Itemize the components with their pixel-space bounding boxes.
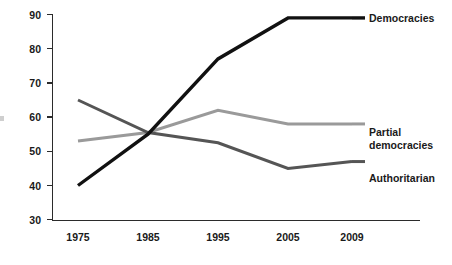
chart-canvas: 90 80 70 60 50 40 30 1975 1985 1995 2005…	[0, 0, 452, 265]
x-tick-label-1995: 1995	[206, 231, 230, 243]
y-tick-label-90: 90	[29, 9, 41, 21]
series-line-partial-democracies	[78, 110, 352, 141]
x-tick-label-2009: 2009	[340, 231, 364, 243]
edge-artifact	[0, 116, 4, 121]
series-label-partial-democracies-line1: Partial	[369, 126, 401, 138]
x-tick-label-1985: 1985	[136, 231, 160, 243]
x-tick-label-1975: 1975	[66, 231, 90, 243]
series-label-authoritarian: Authoritarian	[369, 172, 435, 184]
y-tick-label-80: 80	[29, 43, 41, 55]
y-tick-label-60: 60	[29, 111, 41, 123]
series-line-democracies	[78, 18, 352, 186]
series-label-democracies: Democracies	[369, 12, 435, 24]
y-tick-label-40: 40	[29, 180, 41, 192]
x-tick-label-2005: 2005	[276, 231, 300, 243]
y-tick-label-50: 50	[29, 145, 41, 157]
series-label-partial-democracies-line2: democracies	[369, 139, 433, 151]
y-tick-label-70: 70	[29, 77, 41, 89]
y-tick-label-30: 30	[29, 214, 41, 226]
line-chart: 90 80 70 60 50 40 30 1975 1985 1995 2005…	[0, 0, 452, 265]
